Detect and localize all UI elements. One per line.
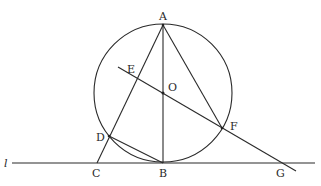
point-f bbox=[221, 127, 224, 130]
geometry-diagram: A E O F D C B G l bbox=[0, 0, 321, 186]
segment-ac bbox=[97, 25, 163, 163]
point-o bbox=[162, 92, 165, 95]
point-a bbox=[162, 24, 165, 27]
label-d: D bbox=[96, 131, 105, 144]
label-f: F bbox=[230, 120, 238, 133]
label-o: O bbox=[168, 81, 177, 94]
segment-db bbox=[109, 136, 163, 163]
line-eg bbox=[118, 67, 296, 171]
label-a: A bbox=[158, 10, 168, 23]
segment-af bbox=[163, 25, 222, 128]
label-e: E bbox=[127, 63, 135, 76]
label-l: l bbox=[4, 157, 8, 170]
point-d bbox=[108, 135, 111, 138]
label-c: C bbox=[92, 167, 100, 180]
label-b: B bbox=[159, 167, 167, 180]
label-g: G bbox=[276, 167, 285, 180]
